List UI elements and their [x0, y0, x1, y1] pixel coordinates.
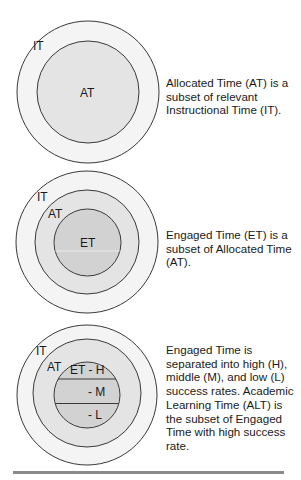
et-middle-label: - M [88, 385, 105, 399]
panel-2-caption: Engaged Time (ET) is a subset of Allocat… [166, 228, 300, 269]
et-low-label: - L [88, 408, 102, 422]
at-label: AT [48, 207, 63, 221]
at-label: AT [47, 360, 62, 374]
et-label: ET [80, 236, 96, 250]
et-high-label: ET - H [70, 363, 104, 377]
panel-1-caption: Allocated Time (AT) is a subset of relev… [166, 76, 300, 117]
panel-2-circles: IT AT ET [16, 171, 158, 313]
panel-1-circles: IT AT [17, 21, 159, 163]
panel-3-caption: Engaged Time is separated into high (H),… [166, 343, 300, 453]
it-label: IT [33, 39, 44, 53]
bottom-rule [13, 471, 284, 474]
at-label: AT [80, 86, 95, 100]
it-label: IT [37, 190, 48, 204]
panel-3-circles: IT AT ET - H - M - L [17, 325, 157, 465]
it-label: IT [36, 344, 47, 358]
